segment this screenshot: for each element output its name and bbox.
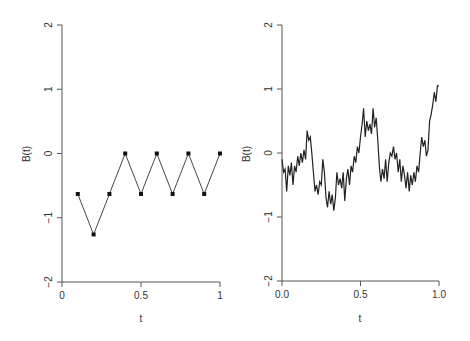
- data-point-marker: [202, 192, 206, 196]
- y-tick-label: −1: [43, 212, 54, 224]
- x-tick-label: 1.0: [432, 289, 446, 300]
- y-tick-label: −2: [43, 276, 54, 288]
- y-tick-label: 0: [263, 150, 274, 156]
- right-x-ticks: 0.00.51.0: [275, 281, 446, 300]
- y-tick-label: −1: [263, 211, 274, 223]
- data-point-marker: [218, 152, 222, 156]
- data-point-marker: [171, 192, 175, 196]
- x-tick-label: 1: [217, 290, 223, 301]
- left-y-ticks: −2−1012: [43, 22, 62, 288]
- data-point-marker: [186, 152, 190, 156]
- data-point-marker: [123, 152, 127, 156]
- data-point-marker: [139, 192, 143, 196]
- y-tick-label: −2: [263, 275, 274, 287]
- y-tick-label: 2: [263, 22, 274, 28]
- right-data-line: [282, 86, 439, 211]
- x-tick-label: 0: [59, 290, 65, 301]
- y-tick-label: 1: [43, 86, 54, 92]
- x-tick-label: 0.5: [134, 290, 148, 301]
- left-x-ticks: 00.51: [59, 282, 223, 301]
- left-y-axis-label: B(t): [21, 146, 32, 162]
- x-tick-label: 0.5: [354, 289, 368, 300]
- y-tick-label: 1: [263, 86, 274, 92]
- right-x-axis-label: t: [359, 313, 362, 324]
- left-data-line: [78, 154, 220, 235]
- right-y-axis-label: B(t): [241, 146, 252, 162]
- data-point-marker: [155, 152, 159, 156]
- x-tick-label: 0.0: [275, 289, 289, 300]
- figure: −2−1012 00.51 B(t) t −2−1012 0.00.51.0 B…: [0, 0, 470, 341]
- y-tick-label: 2: [43, 22, 54, 28]
- data-point-marker: [107, 192, 111, 196]
- y-tick-label: 0: [43, 150, 54, 156]
- data-point-marker: [92, 232, 96, 236]
- data-point-marker: [76, 192, 80, 196]
- right-y-ticks: −2−1012: [263, 22, 282, 287]
- left-x-axis-label: t: [140, 313, 143, 324]
- right-plot-panel: −2−1012 0.00.51.0 B(t) t: [241, 22, 446, 324]
- left-plot-panel: −2−1012 00.51 B(t) t: [21, 22, 223, 324]
